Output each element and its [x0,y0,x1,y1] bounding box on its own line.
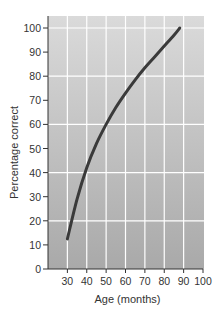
y-tick-label: 0 [35,263,41,275]
y-tick-label: 40 [29,167,41,179]
x-axis-title: Age (months) [94,293,160,305]
y-tick-label: 80 [29,70,41,82]
x-tick-label: 30 [62,275,74,287]
x-tick-label: 80 [158,275,170,287]
x-tick-label: 90 [178,275,190,287]
y-axis-title: Percentage correct [8,106,20,199]
y-tick-label: 20 [29,215,41,227]
x-axis-ticks: 30405060708090100 [62,269,212,287]
x-tick-label: 60 [120,275,132,287]
x-tick-label: 40 [81,275,93,287]
y-tick-label: 30 [29,191,41,203]
y-tick-label: 100 [23,22,41,34]
y-tick-label: 60 [29,118,41,130]
x-tick-label: 70 [139,275,151,287]
y-tick-label: 10 [29,239,41,251]
y-tick-label: 50 [29,143,41,155]
y-tick-label: 70 [29,94,41,106]
line-chart: 30405060708090100 0102030405060708090100… [0,0,220,319]
y-tick-label: 90 [29,46,41,58]
y-axis-ticks: 0102030405060708090100 [23,22,48,275]
x-tick-label: 50 [100,275,112,287]
x-tick-label: 100 [194,275,212,287]
